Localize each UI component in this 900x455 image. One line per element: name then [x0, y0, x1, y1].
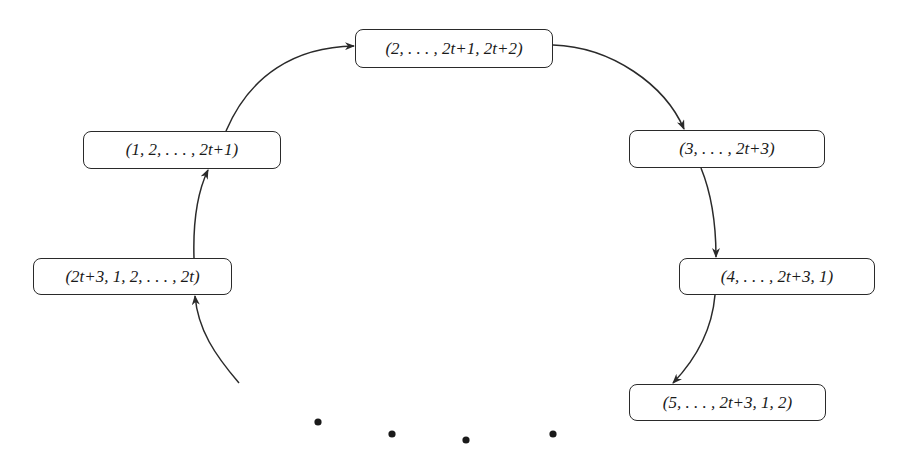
edge-n1-to-n2	[701, 168, 716, 257]
node-left-2: (2t+3, 1, 2, . . . , 2t)	[33, 258, 232, 295]
continuation-dot	[314, 418, 321, 425]
edge-n0-to-n1	[553, 45, 684, 129]
cycle-diagram: (2, . . . , 2t+1, 2t+2) (3, . . . , 2t+3…	[0, 0, 900, 455]
edge-n2-to-n3	[673, 295, 715, 383]
edge-n4-to-n5	[194, 170, 208, 258]
node-label: (3, . . . , 2t+3)	[679, 139, 775, 159]
edge-continuation-to-n4	[195, 296, 239, 383]
node-label: (4, . . . , 2t+3, 1)	[721, 267, 834, 287]
node-left-1: (1, 2, . . . , 2t+1)	[83, 131, 281, 169]
edge-n5-to-n0	[226, 46, 354, 131]
node-right-2: (4, . . . , 2t+3, 1)	[679, 258, 875, 295]
node-right-3: (5, . . . , 2t+3, 1, 2)	[629, 384, 826, 421]
node-right-1: (3, . . . , 2t+3)	[629, 130, 825, 168]
continuation-dot	[388, 430, 395, 437]
node-label: (5, . . . , 2t+3, 1, 2)	[663, 393, 793, 413]
node-label: (2, . . . , 2t+1, 2t+2)	[385, 39, 522, 59]
node-label: (2t+3, 1, 2, . . . , 2t)	[65, 267, 199, 287]
node-label: (1, 2, . . . , 2t+1)	[126, 140, 239, 160]
continuation-dot	[462, 436, 469, 443]
node-top: (2, . . . , 2t+1, 2t+2)	[355, 29, 553, 68]
continuation-dot	[549, 430, 556, 437]
